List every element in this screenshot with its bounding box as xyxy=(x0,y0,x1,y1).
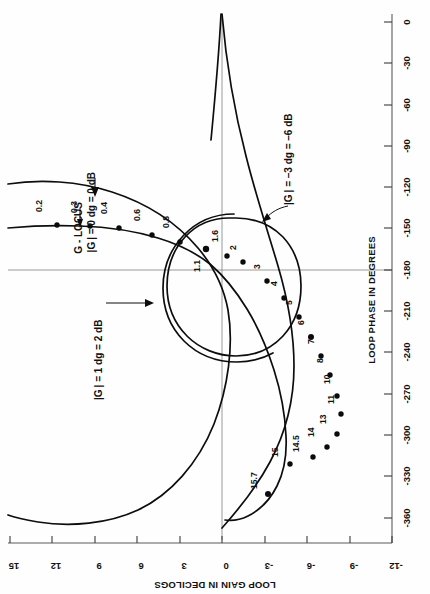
locus-point-15.7 xyxy=(265,491,271,497)
point-label-2: 2 xyxy=(228,245,238,250)
gain-tick-label-3: 3 xyxy=(181,561,186,572)
gain-tick-label-m6: -6 xyxy=(307,561,315,572)
locus-point-7 xyxy=(318,353,323,358)
locus-point-2 xyxy=(240,259,245,264)
annotation-contour-2db: |G | = 1 dg = 2 dB xyxy=(93,299,154,400)
point-label-0.4: 0.4 xyxy=(99,202,109,214)
nichols-chart-figure: 15 12 9 6 3 0 -3 -6 -9 -12 LOOP GAIN IN … xyxy=(0,0,430,594)
phase-axis-ticks: 0 -30 -60 -90 -120 -150 -180 -210 -240 -… xyxy=(366,19,412,527)
gridlines xyxy=(8,14,392,540)
contour-m6db xyxy=(211,14,294,528)
contour-2db-label-text: |G | = 1 dg = 2 dB xyxy=(93,320,104,400)
phase-tick-label-m180: -180 xyxy=(401,260,412,279)
gain-tick-label-m12: -12 xyxy=(389,561,403,572)
contour-m6db-label-text: |G | = –3 dg = –6 dB xyxy=(283,113,294,205)
contour-m6db-leader xyxy=(266,206,288,218)
locus-point-14 xyxy=(324,444,329,449)
annotation-contour-m6db: |G | = –3 dg = –6 dB xyxy=(262,113,294,222)
phase-tick-label-m300: -300 xyxy=(401,425,412,444)
locus-point-0.2 xyxy=(54,222,59,227)
phase-tick-label-m240: -240 xyxy=(401,342,412,361)
point-label-6: 6 xyxy=(296,320,306,325)
axes xyxy=(8,14,392,543)
contour-2db-label: |G | = 1 dg = 2 dB xyxy=(93,320,104,400)
phase-tick-label-m150: -150 xyxy=(401,218,412,237)
gain-tick-label-6: 6 xyxy=(138,561,143,572)
point-label-4: 4 xyxy=(269,281,279,286)
locus-point-13 xyxy=(334,431,339,436)
phase-tick-label-m90: -90 xyxy=(401,139,412,153)
gain-tick-label-m3: -3 xyxy=(265,561,273,572)
point-label-3: 3 xyxy=(252,264,262,269)
gain-tick-label-12: 12 xyxy=(51,561,62,572)
phase-axis-title: LOOP PHASE IN DEGREES xyxy=(366,236,377,364)
point-label-0.2: 0.2 xyxy=(34,200,44,212)
point-label-14: 14 xyxy=(306,427,316,437)
point-label-14.5: 14.5 xyxy=(291,435,301,452)
contour-2db xyxy=(167,218,301,356)
gain-tick-label-m9: -9 xyxy=(350,561,358,572)
point-label-0.6: 0.6 xyxy=(132,209,142,221)
gain-tick-label-15: 15 xyxy=(8,561,19,572)
point-label-1.6: 1.6 xyxy=(210,230,220,242)
annotation-g-locus: G - LOCUS xyxy=(73,202,84,254)
gain-axis-title: LOOP GAIN IN DECILOGS xyxy=(154,580,276,591)
point-label-10: 10 xyxy=(322,374,332,384)
point-label-0.8: 0.8 xyxy=(161,216,171,228)
locus-point-1.1 xyxy=(203,246,209,252)
g-locus-label: G - LOCUS xyxy=(73,202,84,254)
contour-0db-path xyxy=(8,181,230,524)
phase-tick-label-m60: -60 xyxy=(401,98,412,112)
contour-m6db-label: |G | = –3 dg = –6 dB xyxy=(283,113,294,205)
gain-axis-ticks: 15 12 9 6 3 0 -3 -6 -9 -12 LOOP GAIN IN … xyxy=(8,536,403,591)
phase-tick-label-0: 0 xyxy=(401,19,412,24)
locus-point-1.6 xyxy=(224,253,229,258)
gain-tick-label-0: 0 xyxy=(223,561,228,572)
contour-0db xyxy=(8,181,230,524)
point-label-15: 15 xyxy=(270,447,280,457)
phase-tick-label-m120: -120 xyxy=(401,177,412,196)
locus-point-4 xyxy=(281,295,286,300)
point-label-5: 5 xyxy=(284,300,294,305)
point-label-7: 7 xyxy=(306,339,316,344)
contour-m6db-path-stub xyxy=(211,14,221,140)
phase-tick-label-m30: -30 xyxy=(401,56,412,70)
point-label-13: 13 xyxy=(318,414,328,424)
phase-tick-label-m360: -360 xyxy=(401,508,412,527)
locus-point-5 xyxy=(296,314,301,319)
point-label-15.7: 15.7 xyxy=(249,472,259,489)
contour-2db-path xyxy=(167,218,301,356)
locus-point-15 xyxy=(287,461,292,466)
point-label-8: 8 xyxy=(315,358,325,363)
annotation-contour-0db: |G | = 0 dg = 0 dB xyxy=(86,172,99,252)
locus-point-14.5 xyxy=(310,454,315,459)
point-label-1.1: 1.1 xyxy=(192,260,202,272)
locus-point-0.4 xyxy=(116,225,121,230)
chart-canvas: 15 12 9 6 3 0 -3 -6 -9 -12 LOOP GAIN IN … xyxy=(0,0,430,594)
phase-tick-label-m270: -270 xyxy=(401,384,412,403)
locus-point-0.8 xyxy=(177,239,182,244)
locus-point-6 xyxy=(308,334,314,340)
gain-tick-label-9: 9 xyxy=(96,561,101,572)
phase-tick-label-m330: -330 xyxy=(401,466,412,485)
point-label-11: 11 xyxy=(326,395,336,404)
phase-tick-label-m210: -210 xyxy=(401,301,412,320)
locus-point-0.6 xyxy=(149,232,154,237)
locus-point-11 xyxy=(338,411,343,416)
contour-m6db-path-upper xyxy=(222,14,294,528)
contour-2db-arrowhead xyxy=(145,299,154,307)
